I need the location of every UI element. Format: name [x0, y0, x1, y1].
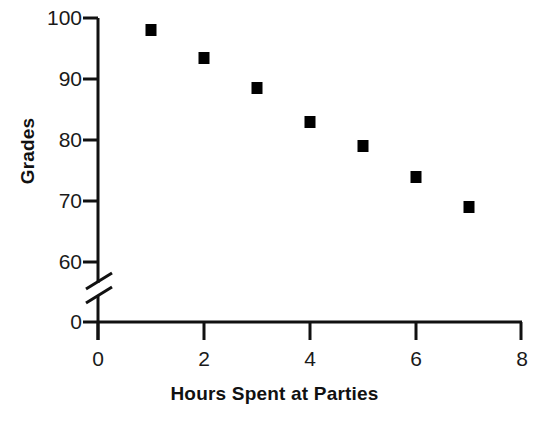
y-axis-title: Grades	[17, 61, 39, 241]
data-point	[252, 82, 263, 94]
data-point	[358, 140, 369, 152]
data-point	[146, 24, 157, 36]
x-axis-title: Hours Spent at Parties	[0, 383, 549, 405]
data-point	[199, 52, 210, 64]
data-point	[411, 171, 422, 183]
data-point	[464, 201, 475, 213]
data-point	[305, 116, 316, 128]
plot-area: 100 90 80 70 60 0 0 2 4 6 8	[0, 0, 549, 429]
scatter-plot-figure: 100 90 80 70 60 0 0 2 4 6 8	[0, 0, 549, 429]
